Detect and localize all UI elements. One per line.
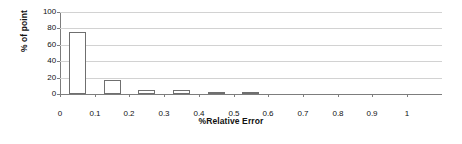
y-tick: [57, 61, 60, 62]
x-tick: [60, 94, 61, 97]
bar-0.25: [208, 92, 225, 94]
bar-0.30: [242, 92, 259, 94]
bar-0.10: [104, 80, 121, 94]
bar-0.20: [173, 90, 190, 94]
gridline-60: [60, 45, 442, 46]
y-tick-label: 20: [32, 74, 56, 82]
gridline-40: [60, 61, 442, 62]
y-tick: [57, 78, 60, 79]
y-tick-label: 60: [32, 41, 56, 49]
x-tick: [199, 94, 200, 97]
bar-0.15: [138, 90, 155, 94]
y-axis-title: % of point: [15, 0, 33, 67]
y-tick-label: 40: [32, 57, 56, 65]
x-tick: [268, 94, 269, 97]
x-tick: [234, 94, 235, 97]
x-axis-line: [60, 94, 442, 95]
x-tick: [338, 94, 339, 97]
y-axis-line: [60, 12, 61, 94]
x-tick: [164, 94, 165, 97]
plot-area: 0 0.1 0.2 0.3 0.4 0.5 0.6 0.7 0.8 0.9 1: [60, 12, 442, 94]
gridline-80: [60, 28, 442, 29]
y-tick: [57, 28, 60, 29]
y-tick: [57, 12, 60, 13]
gridline-20: [60, 78, 442, 79]
x-tick: [303, 94, 304, 97]
y-tick-label: 0: [32, 90, 56, 98]
gridline-100: [60, 12, 442, 13]
x-axis-title: %Relative Error: [0, 116, 462, 126]
x-tick: [129, 94, 130, 97]
bar-0.05: [69, 32, 86, 94]
relative-error-histogram: % of point 100 80 60 40 20 0: [0, 0, 462, 144]
y-tick-label: 100: [32, 8, 56, 16]
y-tick: [57, 45, 60, 46]
x-tick: [95, 94, 96, 97]
x-tick: [372, 94, 373, 97]
y-tick-label: 80: [32, 24, 56, 32]
x-tick: [407, 94, 408, 97]
